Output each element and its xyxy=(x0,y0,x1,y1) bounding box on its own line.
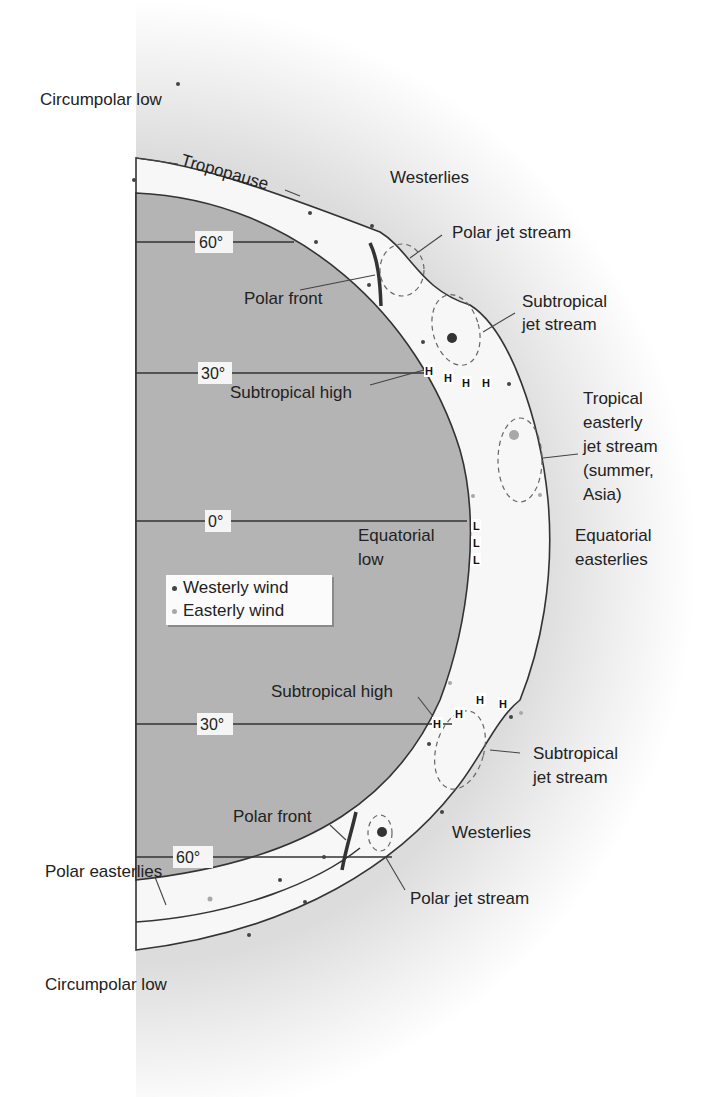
svg-text:L: L xyxy=(473,554,480,566)
label-westerlies-north: Westerlies xyxy=(390,168,469,187)
svg-text:L: L xyxy=(473,520,480,532)
label-tropical-easterly-3: jet stream xyxy=(582,437,658,456)
label-tropical-easterly-5: Asia) xyxy=(583,485,622,504)
westerly-dot-icon xyxy=(172,586,177,591)
legend-label-easterly: Easterly wind xyxy=(183,601,284,620)
label-circumpolar-low-south: Circumpolar low xyxy=(45,975,168,994)
label-polar-easterlies: Polar easterlies xyxy=(45,862,162,881)
label-polar-front-south: Polar front xyxy=(233,807,312,826)
svg-text:H: H xyxy=(476,694,484,706)
label-subtropical-high-north: Subtropical high xyxy=(230,383,352,402)
svg-text:H: H xyxy=(444,372,452,384)
label-tropical-easterly-2: easterly xyxy=(583,413,643,432)
svg-text:H: H xyxy=(433,718,441,730)
label-equatorial-low-1: Equatorial xyxy=(358,526,435,545)
easterly-dot-icon xyxy=(172,609,177,614)
label-subtropical-jet-south-1: Subtropical xyxy=(533,744,618,763)
label-equatorial-easterlies-1: Equatorial xyxy=(575,526,652,545)
legend-item-easterly: Easterly wind xyxy=(172,601,284,621)
label-polar-jet-stream-south: Polar jet stream xyxy=(410,889,529,908)
svg-text:H: H xyxy=(482,377,490,389)
label-subtropical-jet-north-2: jet stream xyxy=(521,315,597,334)
label-westerlies-south: Westerlies xyxy=(452,823,531,842)
diagram-canvas: 60° 30° 0° 30° 60° xyxy=(0,0,709,1097)
label-polar-jet-stream-north: Polar jet stream xyxy=(452,223,571,242)
label-subtropical-jet-south-2: jet stream xyxy=(532,768,608,787)
svg-text:H: H xyxy=(455,708,463,720)
latitude-label-n30: 30° xyxy=(201,365,225,382)
atmospheric-circulation-diagram: 60° 30° 0° 30° 60° xyxy=(0,0,709,1097)
label-subtropical-high-south: Subtropical high xyxy=(271,682,393,701)
equatorial-low-markers: L L L xyxy=(471,519,481,566)
label-tropical-easterly-4: (summer, xyxy=(583,461,654,480)
latitude-label-s60: 60° xyxy=(176,849,200,866)
subtropical-jet-north-core xyxy=(447,333,457,343)
label-equatorial-low-2: low xyxy=(358,550,384,569)
legend-label-westerly: Westerly wind xyxy=(183,578,289,597)
label-equatorial-easterlies-2: easterlies xyxy=(575,550,648,569)
svg-text:L: L xyxy=(473,537,480,549)
svg-text:H: H xyxy=(425,365,433,377)
legend-item-westerly: Westerly wind xyxy=(172,578,289,598)
latitude-label-n60: 60° xyxy=(199,234,223,251)
label-tropical-easterly-1: Tropical xyxy=(583,389,643,408)
label-polar-front-north: Polar front xyxy=(244,289,323,308)
label-circumpolar-low-north: Circumpolar low xyxy=(40,90,163,109)
latitude-label-equator: 0° xyxy=(208,513,223,530)
latitude-label-s30: 30° xyxy=(200,716,224,733)
polar-jet-south-core xyxy=(377,827,387,837)
label-subtropical-jet-north-1: Subtropical xyxy=(522,292,607,311)
tropical-easterly-jet-core xyxy=(509,430,519,440)
svg-text:H: H xyxy=(462,377,470,389)
legend: Westerly wind Easterly wind xyxy=(166,575,332,625)
svg-text:H: H xyxy=(499,698,507,710)
